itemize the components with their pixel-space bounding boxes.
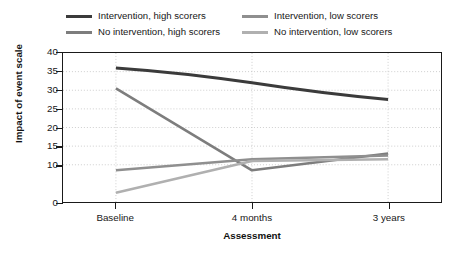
legend-label-no-intervention-high-scorers: No intervention, high scorers [98, 27, 220, 37]
x-axis-tick-mark [389, 203, 390, 209]
legend-label-intervention-low-scorers: Intervention, low scorers [274, 11, 378, 21]
legend-item-no-intervention-low-scorers[interactable]: No intervention, low scorers [242, 24, 438, 40]
legend-swatch-no-intervention-high-scorers [66, 31, 92, 34]
y-axis-tick-label: 40 [24, 47, 58, 57]
x-axis-tick-marks [62, 203, 442, 211]
x-axis-tick-label: 3 years [373, 212, 405, 223]
x-axis-title: Assessment [62, 230, 442, 241]
x-axis-tick-labels: Baseline4 months3 years [62, 212, 442, 226]
chart-figure: Intervention, high scorers Intervention,… [0, 0, 452, 253]
legend-item-intervention-high-scorers[interactable]: Intervention, high scorers [66, 8, 242, 24]
y-axis-tick-label: 35 [24, 66, 58, 76]
y-axis-tick-label: 0 [24, 198, 58, 208]
legend-label-intervention-high-scorers: Intervention, high scorers [98, 11, 206, 21]
legend-swatch-intervention-low-scorers [242, 15, 268, 18]
chart-legend: Intervention, high scorers Intervention,… [66, 8, 438, 40]
series-line [116, 68, 388, 100]
y-axis-tick-labels: 010152025303540 [24, 44, 58, 212]
x-axis-tick-label: 4 months [232, 212, 272, 223]
chart-series-lines [63, 53, 441, 202]
y-axis-tick-label: 25 [24, 104, 58, 114]
y-axis-tick-label: 10 [24, 160, 58, 170]
y-axis-tick-label: 15 [24, 141, 58, 151]
y-axis-title: Impact of event scale [13, 24, 24, 164]
x-axis-tick-label: Baseline [96, 212, 134, 223]
x-axis-tick-mark [252, 203, 253, 209]
legend-item-no-intervention-high-scorers[interactable]: No intervention, high scorers [66, 24, 242, 40]
legend-swatch-no-intervention-low-scorers [242, 31, 268, 34]
legend-label-no-intervention-low-scorers: No intervention, low scorers [274, 27, 392, 37]
y-axis-tick-label: 30 [24, 85, 58, 95]
y-axis-tick-label: 20 [24, 123, 58, 133]
plot-area [62, 52, 442, 203]
x-axis-tick-mark [115, 203, 116, 209]
legend-swatch-intervention-high-scorers [66, 15, 92, 18]
series-line [116, 155, 388, 170]
legend-item-intervention-low-scorers[interactable]: Intervention, low scorers [242, 8, 438, 24]
series-line [116, 159, 388, 193]
